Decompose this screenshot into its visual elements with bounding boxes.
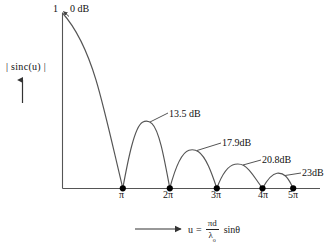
annotation-0db: 0 dB (70, 4, 89, 14)
annotation-20-8db: 20.8dB (262, 155, 291, 165)
x-axis-tick-pi: π (119, 190, 124, 200)
x-axis-tick-2pi: 2π (163, 190, 173, 200)
x-axis-caption: u = πd λo sinθ (188, 219, 240, 242)
annotation-17-9db: 17.9dB (222, 138, 251, 148)
figure-background (0, 0, 333, 250)
x-axis-caption-variable: u (188, 225, 193, 235)
fraction-numerator: πd (206, 219, 219, 229)
x-axis-caption-fraction: πd λo (206, 219, 219, 242)
fraction-denominator: λo (206, 230, 217, 242)
annotation-13-5db: 13.5 dB (169, 109, 201, 119)
x-axis-caption-sin-term: sinθ (224, 225, 240, 235)
plot-canvas (0, 0, 333, 250)
y-axis-label: | sinc(u) | (6, 62, 46, 72)
x-axis-caption-equals: = (196, 225, 202, 235)
x-axis-tick-5pi: 5π (288, 190, 298, 200)
y-axis-tick-label-one: 1 (53, 4, 58, 14)
x-axis-tick-3pi: 3π (211, 190, 221, 200)
x-axis-tick-4pi: 4π (258, 190, 268, 200)
sinc-plot-figure: 1 0 dB 13.5 dB 17.9dB 20.8dB 23dB | sinc… (0, 0, 333, 250)
fraction-denominator-subscript: o (213, 237, 216, 243)
annotation-23db: 23dB (302, 168, 324, 178)
